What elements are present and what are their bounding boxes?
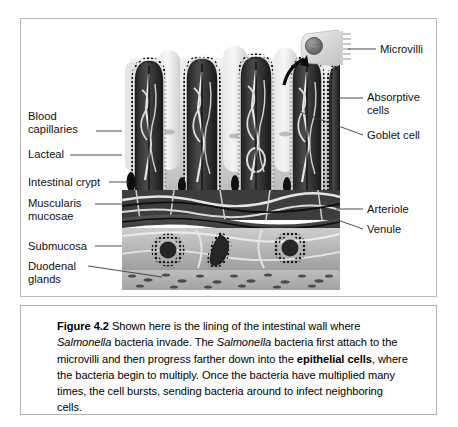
label-muscularis-mucosae: Muscularis mucosae (28, 197, 81, 222)
figure-caption-text: Figure 4.2 Shown here is the lining of t… (57, 318, 409, 416)
label-arteriole: Arteriole (367, 203, 409, 216)
label-goblet-cell: Goblet cell (367, 129, 420, 142)
villus (240, 56, 272, 190)
label-intestinal-crypt: Intestinal crypt (28, 176, 100, 189)
label-blood-capillaries: Blood capillaries (28, 110, 78, 135)
submucosa (122, 228, 340, 270)
magnify-arrow-icon (280, 45, 330, 90)
label-duodenal-glands: Duodenal glands (28, 260, 76, 285)
microvilli-brush-border (342, 34, 351, 59)
label-lacteal: Lacteal (28, 148, 64, 161)
villus (134, 60, 164, 190)
label-microvilli: Microvilli (380, 43, 423, 56)
label-submucosa: Submucosa (28, 240, 87, 253)
villus (186, 58, 218, 192)
label-venule: Venule (367, 223, 401, 236)
figure-page: Blood capillaries Lacteal Intestinal cry… (0, 0, 458, 427)
figure-caption-box: Figure 4.2 Shown here is the lining of t… (20, 305, 437, 415)
label-absorptive-cells: Absorptive cells (367, 91, 420, 116)
muscle-layer (122, 270, 340, 290)
